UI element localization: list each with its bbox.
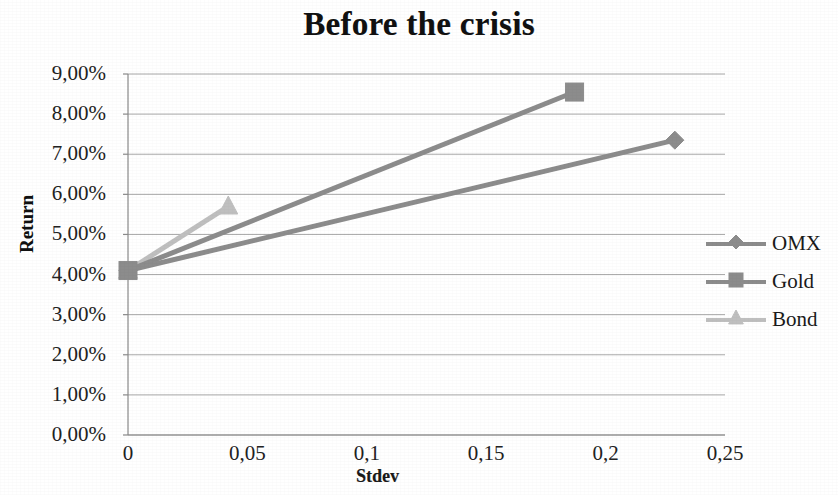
- legend-marker-shape: [729, 273, 743, 287]
- legend-marker-shape: [729, 235, 743, 249]
- data-point-omx-1: [666, 131, 684, 149]
- legend-marker-diamond-icon: [728, 234, 744, 250]
- chart-container: Before the crisis Return Stdev 0,00%1,00…: [0, 0, 838, 495]
- data-point-gold-1: [566, 83, 584, 101]
- plot-area: [0, 0, 838, 495]
- legend-label: OMX: [772, 231, 821, 256]
- legend-label: Bond: [772, 307, 818, 332]
- legend-marker-shape: [729, 310, 744, 324]
- legend-marker-square-icon: [728, 272, 744, 288]
- data-point-bond-1: [219, 196, 238, 214]
- legend-marker-triangle-icon: [728, 310, 744, 326]
- legend-label: Gold: [772, 269, 814, 294]
